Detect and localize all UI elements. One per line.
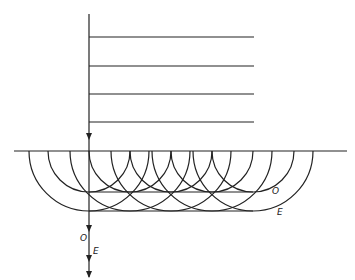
arrow-down-icon [86, 255, 92, 262]
arrow-down-icon [86, 133, 92, 140]
wave-diagram: O E O E [0, 0, 355, 280]
label-ordinary-front: O [272, 186, 279, 196]
label-extraordinary-front: E [277, 207, 283, 217]
ordinary-wavelets [48, 151, 294, 192]
extraordinary-wavelets [29, 151, 313, 211]
arrow-down-icon [86, 271, 92, 278]
arrow-down-icon [86, 225, 92, 232]
label-ordinary-ray: O [80, 233, 87, 243]
incident-wavefronts [89, 37, 254, 122]
label-extraordinary-ray: E [93, 246, 99, 256]
